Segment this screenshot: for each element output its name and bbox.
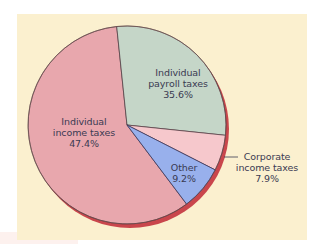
- label-individual-payroll-taxes: Individual payroll taxes 35.6%: [138, 67, 218, 100]
- label-individual-income-taxes: Individual income taxes 47.4%: [44, 116, 124, 149]
- label-other-value: 9.2%: [164, 173, 204, 184]
- label-corporate-line2: income taxes: [232, 162, 302, 173]
- label-corporate-value: 7.9%: [232, 173, 302, 184]
- label-corporate-line1: Corporate: [232, 151, 302, 162]
- label-payroll-line1: Individual: [138, 67, 218, 78]
- label-income-line1: Individual: [44, 116, 124, 127]
- label-corporate-income-taxes: Corporate income taxes 7.9%: [232, 151, 302, 184]
- label-income-line2: income taxes: [44, 127, 124, 138]
- label-other-line1: Other: [164, 162, 204, 173]
- label-income-value: 47.4%: [44, 138, 124, 149]
- label-payroll-line2: payroll taxes: [138, 78, 218, 89]
- label-other: Other 9.2%: [164, 162, 204, 184]
- label-payroll-value: 35.6%: [138, 89, 218, 100]
